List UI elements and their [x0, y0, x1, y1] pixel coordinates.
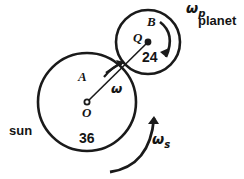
sun-arrow-head-icon	[148, 116, 159, 124]
omega-subscript-sun: s	[164, 139, 170, 150]
planet-point-label-B: B	[147, 15, 156, 28]
sun-point-label-A: A	[78, 70, 87, 83]
sun-rotation-arrow-icon	[110, 118, 154, 172]
diagram-canvas: B Q 24 A O 36 sun planet ωp ωs ω	[0, 0, 244, 179]
omega-glyph-sun: ω	[152, 131, 164, 147]
sun-center-label-O: O	[82, 106, 91, 119]
sun-center-dot	[84, 99, 89, 104]
arm-angular-velocity-label: ω	[111, 82, 122, 95]
sun-angular-velocity-label: ωs	[152, 132, 170, 150]
planet-angular-velocity-label: ωp	[186, 1, 205, 19]
omega-glyph-planet: ω	[186, 0, 198, 16]
omega-subscript-planet: p	[198, 8, 205, 19]
planet-center-label-Q: Q	[133, 31, 142, 44]
planet-center-dot	[145, 39, 150, 44]
sun-tooth-count-label: 36	[79, 131, 95, 145]
sun-name-label: sun	[9, 124, 32, 137]
planet-tooth-count-label: 24	[142, 50, 158, 64]
